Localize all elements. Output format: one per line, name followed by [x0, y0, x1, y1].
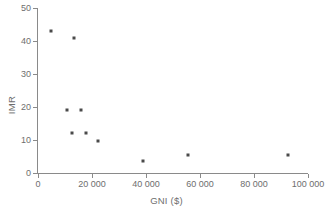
y-tick-label: 10	[21, 136, 31, 145]
data-point	[80, 109, 83, 112]
data-point	[286, 153, 289, 156]
x-tick	[308, 174, 309, 178]
y-tick	[33, 107, 37, 108]
data-point	[49, 30, 52, 33]
y-tick-label: 0	[26, 169, 31, 178]
y-tick	[33, 140, 37, 141]
x-tick-label: 40 000	[132, 180, 160, 189]
scatter-chart: IMR 01020304050 020 00040 00060 00080 00…	[0, 0, 333, 209]
data-point	[65, 109, 68, 112]
x-tick	[92, 174, 93, 178]
data-point	[142, 159, 145, 162]
x-tick-label: 20 000	[78, 180, 106, 189]
x-tick-label: 60 000	[186, 180, 214, 189]
x-tick	[200, 174, 201, 178]
x-tick-label: 0	[35, 180, 40, 189]
y-tick-label: 30	[21, 70, 31, 79]
y-tick	[33, 173, 37, 174]
x-tick	[254, 174, 255, 178]
data-point	[85, 132, 88, 135]
y-tick	[33, 41, 37, 42]
plot-area: 01020304050 020 00040 00060 00080 000100…	[38, 8, 308, 173]
data-point	[186, 153, 189, 156]
x-tick	[146, 174, 147, 178]
y-tick-label: 50	[21, 4, 31, 13]
y-axis-line	[37, 8, 38, 174]
x-tick-label: 80 000	[240, 180, 268, 189]
data-point	[71, 132, 74, 135]
x-tick-label: 100 000	[292, 180, 325, 189]
y-tick	[33, 74, 37, 75]
y-tick	[33, 8, 37, 9]
x-axis-line	[37, 173, 308, 174]
x-axis-title: GNI ($)	[0, 195, 333, 206]
data-point	[72, 36, 75, 39]
data-point	[96, 140, 99, 143]
y-tick-label: 20	[21, 103, 31, 112]
y-axis-title: IMR	[6, 95, 17, 113]
x-tick	[38, 174, 39, 178]
y-tick-label: 40	[21, 37, 31, 46]
